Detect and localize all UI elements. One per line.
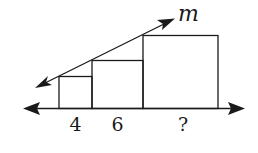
medium-square xyxy=(92,61,143,109)
line-m-lower-arrowhead-icon xyxy=(35,76,52,88)
similar-squares-diagram: m 4 6 ? xyxy=(0,0,258,153)
large-square xyxy=(143,36,218,109)
line-m-upper-arrowhead-icon xyxy=(157,19,175,31)
medium-square-side-label: 6 xyxy=(111,113,123,135)
line-m xyxy=(35,19,175,89)
large-square-side-label: ? xyxy=(178,113,188,135)
small-square xyxy=(59,77,92,109)
line-m-label: m xyxy=(178,1,199,26)
small-square-side-label: 4 xyxy=(69,113,81,135)
